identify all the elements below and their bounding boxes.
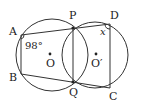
geometry-diagram: A B P Q D C O O′ 98° x (0, 0, 145, 106)
circle-o-prime (62, 22, 128, 88)
label-p: P (69, 9, 77, 22)
point-p (71, 26, 74, 29)
segment-apd (21, 24, 110, 35)
label-d: D (110, 9, 119, 22)
angle-label-d: x (100, 26, 106, 37)
label-q: Q (69, 86, 78, 99)
label-o: O (46, 57, 55, 70)
circle-o (16, 19, 88, 91)
point-q (71, 80, 74, 83)
label-b: B (9, 71, 17, 84)
angle-label-a: 98° (25, 40, 43, 51)
label-a: A (8, 25, 18, 38)
label-c: C (109, 90, 117, 103)
label-o-prime: O′ (91, 57, 103, 70)
center-o-prime (95, 53, 98, 56)
center-o (49, 53, 52, 56)
